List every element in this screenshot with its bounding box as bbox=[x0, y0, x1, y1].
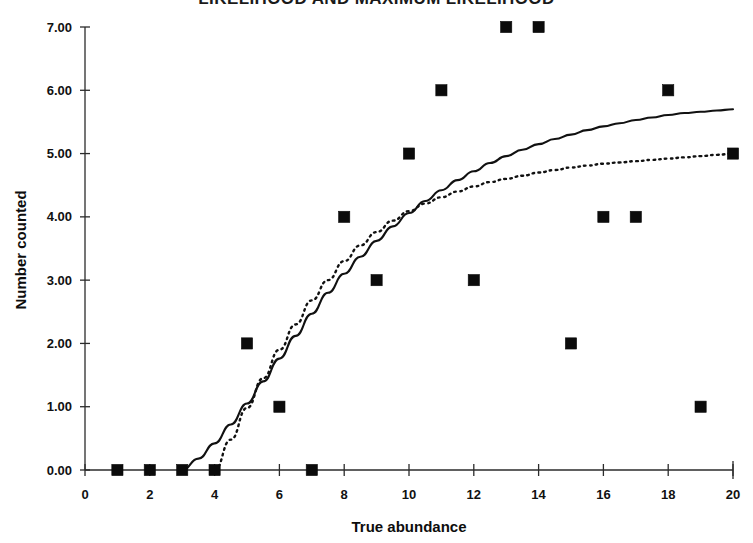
x-tick-label: 20 bbox=[726, 487, 740, 502]
y-axis-title: Number counted bbox=[12, 190, 29, 309]
data-point-marker bbox=[630, 211, 641, 222]
x-tick-label: 14 bbox=[531, 487, 546, 502]
scatter-plot: 0.001.002.003.004.005.006.007.00 0246810… bbox=[0, 0, 753, 543]
x-tick-label: 0 bbox=[81, 487, 88, 502]
data-point-marker bbox=[565, 338, 576, 349]
data-point-marker bbox=[339, 211, 350, 222]
y-tick-label: 5.00 bbox=[47, 146, 72, 161]
data-point-marker bbox=[598, 211, 609, 222]
x-tick-label: 2 bbox=[146, 487, 153, 502]
data-point-marker bbox=[436, 85, 447, 96]
data-point-marker bbox=[274, 401, 285, 412]
x-tick-label: 10 bbox=[402, 487, 416, 502]
x-axis-title: True abundance bbox=[351, 518, 466, 535]
y-tick-label: 0.00 bbox=[47, 463, 72, 478]
data-point-marker bbox=[468, 275, 479, 286]
axis-tick-marks bbox=[80, 27, 733, 476]
data-point-marker bbox=[209, 464, 220, 475]
data-point-marker bbox=[177, 464, 188, 475]
x-tick-label: 12 bbox=[467, 487, 481, 502]
data-point-marker bbox=[403, 148, 414, 159]
x-tick-label: 6 bbox=[276, 487, 283, 502]
data-point-marker bbox=[306, 464, 317, 475]
data-point-marker bbox=[501, 21, 512, 32]
y-tick-label: 7.00 bbox=[47, 20, 72, 35]
chart-page: LIKELIHOOD AND MAXIMUM LIKELIHOOD 0.001.… bbox=[0, 0, 753, 543]
data-point-marker bbox=[371, 275, 382, 286]
x-tick-label: 4 bbox=[211, 487, 219, 502]
data-point-markers bbox=[112, 21, 739, 475]
data-point-marker bbox=[695, 401, 706, 412]
data-point-marker bbox=[533, 21, 544, 32]
x-tick-label: 8 bbox=[341, 487, 348, 502]
x-axis-tick-labels: 02468101214161820 bbox=[81, 487, 740, 502]
y-axis-tick-labels: 0.001.002.003.004.005.006.007.00 bbox=[47, 20, 72, 478]
y-tick-label: 4.00 bbox=[47, 209, 72, 224]
data-point-marker bbox=[144, 464, 155, 475]
y-tick-label: 3.00 bbox=[47, 273, 72, 288]
maximum-likelihood-fit-curve bbox=[215, 154, 733, 470]
data-point-marker bbox=[112, 464, 123, 475]
x-tick-label: 18 bbox=[661, 487, 675, 502]
y-tick-label: 6.00 bbox=[47, 83, 72, 98]
y-tick-label: 1.00 bbox=[47, 399, 72, 414]
data-point-marker bbox=[241, 338, 252, 349]
x-tick-label: 16 bbox=[596, 487, 610, 502]
y-tick-label: 2.00 bbox=[47, 336, 72, 351]
likelihood-fit-curve bbox=[182, 109, 733, 470]
fit-curves bbox=[182, 109, 733, 470]
axis-lines bbox=[85, 27, 733, 479]
data-point-marker bbox=[663, 85, 674, 96]
data-point-marker bbox=[727, 148, 738, 159]
